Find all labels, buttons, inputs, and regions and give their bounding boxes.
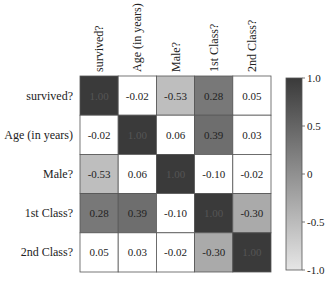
- heatmap-cell: -0.10: [156, 194, 194, 233]
- heatmap-cell: -0.02: [118, 76, 156, 115]
- cell-value-label: 0.28: [204, 90, 224, 102]
- cell-value-label: 0.03: [242, 129, 262, 141]
- cell-value-label: 0.06: [166, 129, 186, 141]
- heatmap-cell: 1.00: [195, 194, 233, 233]
- heatmap-cell: -0.10: [195, 154, 233, 193]
- row-label: 1st Class?: [25, 206, 73, 220]
- heatmap-cell: -0.30: [233, 194, 271, 233]
- cell-value-label: -0.10: [164, 207, 187, 219]
- cell-value-label: 0.05: [89, 246, 109, 258]
- heatmap-cell: 0.03: [118, 233, 156, 272]
- column-label: 1st Class?: [207, 24, 221, 72]
- colorbar-tick-label: 0.5: [307, 120, 321, 132]
- heatmap-cell: 0.06: [118, 154, 156, 193]
- heatmap-cell: 1.00: [233, 233, 271, 272]
- column-label: survived?: [92, 25, 106, 72]
- cell-value-label: 0.39: [128, 207, 148, 219]
- row-label: 2nd Class?: [21, 245, 73, 259]
- cell-value-label: -0.53: [164, 90, 187, 102]
- heatmap-cell: 1.00: [156, 154, 194, 193]
- row-labels: survived?Age (in years)Male?1st Class?2n…: [4, 89, 73, 260]
- colorbar-tick-label: -0.5: [307, 216, 325, 228]
- colorbar-gradient: [286, 78, 302, 270]
- cell-value-label: 1.00: [89, 90, 109, 102]
- heatmap-cells: 1.00-0.02-0.530.280.05-0.021.000.060.390…: [80, 76, 271, 272]
- heatmap-cell: 0.39: [195, 115, 233, 154]
- cell-value-label: -0.10: [202, 168, 225, 180]
- cell-value-label: -0.02: [240, 168, 263, 180]
- cell-value-label: 1.00: [166, 168, 186, 180]
- row-label: Age (in years): [4, 128, 73, 142]
- cell-value-label: 0.06: [128, 168, 148, 180]
- heatmap-cell: -0.53: [80, 154, 118, 193]
- heatmap-cell: 0.39: [118, 194, 156, 233]
- heatmap-cell: -0.53: [156, 76, 194, 115]
- column-label: Male?: [169, 42, 183, 72]
- row-label: Male?: [43, 167, 73, 181]
- cell-value-label: -0.53: [88, 168, 111, 180]
- heatmap-cell: 1.00: [80, 76, 118, 115]
- heatmap-cell: 0.05: [233, 76, 271, 115]
- heatmap-cell: -0.02: [156, 233, 194, 272]
- column-labels: survived?Age (in years)Male?1st Class?2n…: [92, 3, 259, 72]
- cell-value-label: 1.00: [204, 207, 224, 219]
- cell-value-label: 0.39: [204, 129, 224, 141]
- cell-value-label: -0.30: [202, 246, 225, 258]
- heatmap-cell: -0.02: [233, 154, 271, 193]
- heatmap-cell: -0.30: [195, 233, 233, 272]
- heatmap-cell: 0.28: [195, 76, 233, 115]
- cell-value-label: 0.05: [242, 90, 262, 102]
- cell-value-label: -0.02: [126, 90, 149, 102]
- cell-value-label: 1.00: [242, 246, 262, 258]
- cell-value-label: 1.00: [128, 129, 148, 141]
- column-label: Age (in years): [130, 3, 144, 72]
- heatmap-cell: 1.00: [118, 115, 156, 154]
- colorbar-tick-label: 1.0: [307, 72, 321, 84]
- cell-value-label: -0.02: [164, 246, 187, 258]
- colorbar: 1.00.50-0.5-1.0: [286, 72, 325, 276]
- row-label: survived?: [26, 89, 73, 103]
- correlation-heatmap: survived?Age (in years)Male?1st Class?2n…: [0, 0, 333, 288]
- cell-value-label: -0.30: [240, 207, 263, 219]
- colorbar-tick-label: 0: [307, 168, 313, 180]
- heatmap-cell: 0.03: [233, 115, 271, 154]
- cell-value-label: -0.02: [88, 129, 111, 141]
- colorbar-tick-label: -1.0: [307, 264, 325, 276]
- heatmap-cell: 0.28: [80, 194, 118, 233]
- heatmap-cell: 0.05: [80, 233, 118, 272]
- cell-value-label: 0.03: [128, 246, 148, 258]
- heatmap-cell: -0.02: [80, 115, 118, 154]
- cell-value-label: 0.28: [89, 207, 109, 219]
- heatmap-cell: 0.06: [156, 115, 194, 154]
- column-label: 2nd Class?: [245, 20, 259, 72]
